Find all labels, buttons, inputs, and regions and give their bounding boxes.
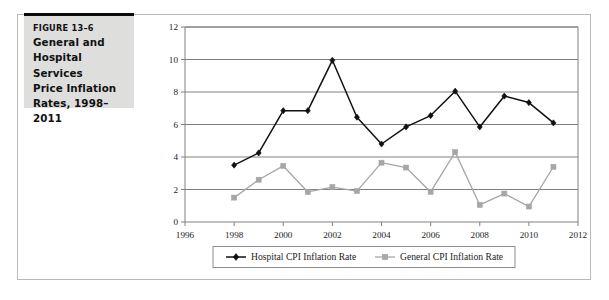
data-point-square	[232, 195, 237, 200]
figure-title-line: Hospital Services	[33, 50, 133, 81]
data-series-layer	[232, 57, 556, 209]
x-axis-tick-label: 1998	[225, 230, 244, 240]
y-axis-tick-label: 4	[173, 152, 178, 162]
x-axis-tick-label: 2008	[471, 230, 490, 240]
x-axis-tick-label: 2004	[372, 230, 391, 240]
data-point-square	[256, 177, 261, 182]
line-chart: 024681012 199619982000200220042006200820…	[150, 14, 595, 286]
data-point-square	[281, 163, 286, 168]
series-line	[234, 152, 553, 206]
data-point-square	[428, 189, 433, 194]
chart-legend: Hospital CPI Inflation RateGeneral CPI I…	[213, 247, 515, 268]
figure-title-line: Rates, 1998–2011	[33, 96, 133, 127]
data-point-square	[502, 191, 507, 196]
x-axis-tick-label: 2012	[569, 230, 588, 240]
data-point-square	[330, 185, 335, 190]
figure-title-line: General and	[33, 35, 133, 50]
axis-lines	[181, 27, 578, 226]
figure-number: FIGURE 13–6	[33, 22, 133, 35]
series-general-cpi	[232, 150, 556, 209]
y-axis-tick-label: 0	[173, 217, 178, 227]
data-point-square	[526, 204, 531, 209]
x-axis-tick-label: 2000	[274, 230, 293, 240]
x-axis-tick-labels: 199619982000200220042006200820102012	[176, 230, 588, 240]
figure-title-line: Price Inflation	[33, 81, 133, 96]
data-point-square	[551, 164, 556, 169]
series-hospital-cpi	[232, 57, 556, 168]
chart-area: 024681012 199619982000200220042006200820…	[150, 14, 595, 286]
x-axis-tick-label: 1996	[176, 230, 195, 240]
y-axis-tick-label: 8	[173, 87, 178, 97]
figure-title: General andHospital ServicesPrice Inflat…	[33, 35, 133, 127]
y-axis-tick-label: 6	[173, 120, 178, 130]
data-point-square	[477, 202, 482, 207]
legend-label: Hospital CPI Inflation Rate	[251, 251, 356, 262]
data-point-square	[453, 150, 458, 155]
data-point-square	[382, 254, 387, 259]
data-point-diamond	[232, 162, 237, 168]
data-point-square	[305, 189, 310, 194]
y-axis-tick-labels: 024681012	[169, 22, 179, 227]
data-point-square	[354, 189, 359, 194]
y-axis-tick-label: 12	[169, 22, 179, 32]
legend-label: General CPI Inflation Rate	[400, 251, 503, 262]
x-axis-tick-label: 2006	[421, 230, 440, 240]
y-axis-tick-label: 2	[173, 185, 178, 195]
data-point-square	[379, 160, 384, 165]
y-axis-tick-label: 10	[169, 55, 179, 65]
figure-container: FIGURE 13–6 General andHospital Services…	[0, 0, 609, 300]
figure-caption: FIGURE 13–6 General andHospital Services…	[33, 22, 133, 127]
x-axis-tick-label: 2010	[520, 230, 539, 240]
data-point-square	[404, 165, 409, 170]
x-axis-tick-label: 2002	[323, 230, 342, 240]
